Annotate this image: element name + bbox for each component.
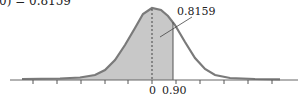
shaded-area — [22, 8, 173, 80]
tick-label-0: 0 — [149, 84, 156, 96]
tick-label-0-90: 0.90 — [162, 84, 187, 96]
area-annotation: 0.8159 — [177, 5, 216, 18]
normal-curve-chart: 0.8159 0 0.90 — [0, 0, 303, 96]
